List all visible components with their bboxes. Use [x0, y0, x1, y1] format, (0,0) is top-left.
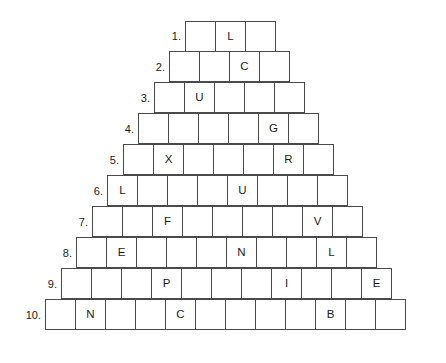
- puzzle-cell[interactable]: [303, 144, 334, 175]
- puzzle-cell[interactable]: [135, 299, 166, 330]
- puzzle-cell[interactable]: [166, 237, 197, 268]
- puzzle-cell[interactable]: [122, 206, 153, 237]
- puzzle-cell[interactable]: [285, 299, 316, 330]
- pyramid-row: 1.L: [186, 21, 276, 52]
- puzzle-cell[interactable]: E: [361, 268, 392, 299]
- puzzle-cell[interactable]: L: [316, 237, 347, 268]
- puzzle-cell[interactable]: [136, 237, 167, 268]
- puzzle-cell[interactable]: E: [106, 237, 137, 268]
- puzzle-cell[interactable]: [121, 268, 152, 299]
- puzzle-cell[interactable]: [345, 299, 376, 330]
- puzzle-cell[interactable]: B: [315, 299, 346, 330]
- puzzle-cell[interactable]: [287, 175, 318, 206]
- puzzle-cell[interactable]: [241, 268, 272, 299]
- puzzle-cell[interactable]: R: [273, 144, 304, 175]
- puzzle-cell[interactable]: [76, 237, 107, 268]
- puzzle-cell[interactable]: [317, 175, 348, 206]
- puzzle-cell[interactable]: [214, 82, 245, 113]
- puzzle-cell[interactable]: I: [271, 268, 302, 299]
- row-number-label: 10.: [26, 300, 46, 331]
- pyramid-row: 4.G: [139, 114, 319, 145]
- row-number-label: 6.: [94, 176, 108, 207]
- pyramid-row: 5.XR: [124, 145, 334, 176]
- puzzle-cell[interactable]: [331, 268, 362, 299]
- puzzle-cell[interactable]: [274, 82, 305, 113]
- puzzle-cell[interactable]: [228, 113, 259, 144]
- puzzle-cell[interactable]: [197, 175, 228, 206]
- puzzle-cell[interactable]: [242, 206, 273, 237]
- puzzle-cell[interactable]: [181, 268, 212, 299]
- row-number-label: 9.: [48, 269, 62, 300]
- row-number-label: 2.: [156, 52, 170, 83]
- pyramid-row: 6.LU: [108, 176, 348, 207]
- puzzle-cell[interactable]: [105, 299, 136, 330]
- row-number-label: 7.: [79, 207, 93, 238]
- puzzle-cell[interactable]: [137, 175, 168, 206]
- puzzle-cell[interactable]: [346, 237, 377, 268]
- puzzle-cell[interactable]: [168, 113, 199, 144]
- puzzle-cell[interactable]: [91, 268, 122, 299]
- pyramid-row: 8.ENL: [77, 238, 377, 269]
- puzzle-cell[interactable]: F: [152, 206, 183, 237]
- puzzle-cell[interactable]: N: [226, 237, 257, 268]
- puzzle-cell[interactable]: [288, 113, 319, 144]
- puzzle-cell[interactable]: [211, 268, 242, 299]
- puzzle-cell[interactable]: [92, 206, 123, 237]
- puzzle-cell[interactable]: U: [184, 82, 215, 113]
- puzzle-cell[interactable]: [213, 144, 244, 175]
- puzzle-cell[interactable]: [45, 299, 76, 330]
- puzzle-cell[interactable]: [272, 206, 303, 237]
- pyramid-row: 9.PIE: [62, 269, 392, 300]
- puzzle-cell[interactable]: V: [302, 206, 333, 237]
- puzzle-cell[interactable]: U: [227, 175, 258, 206]
- puzzle-cell[interactable]: [154, 82, 185, 113]
- puzzle-cell[interactable]: L: [107, 175, 138, 206]
- puzzle-cell[interactable]: [167, 175, 198, 206]
- puzzle-cell[interactable]: [123, 144, 154, 175]
- puzzle-cell[interactable]: [259, 51, 290, 82]
- puzzle-cell[interactable]: C: [165, 299, 196, 330]
- row-number-label: 8.: [63, 238, 77, 269]
- puzzle-cell[interactable]: [182, 206, 213, 237]
- puzzle-cell[interactable]: [196, 237, 227, 268]
- puzzle-cell[interactable]: [199, 51, 230, 82]
- puzzle-cell[interactable]: [195, 299, 226, 330]
- puzzle-cell[interactable]: [255, 299, 286, 330]
- puzzle-cell[interactable]: [332, 206, 363, 237]
- puzzle-cell[interactable]: [198, 113, 229, 144]
- puzzle-cell[interactable]: [138, 113, 169, 144]
- puzzle-cell[interactable]: [286, 237, 317, 268]
- pyramid-row: 7.FV: [93, 207, 363, 238]
- puzzle-cell[interactable]: [256, 237, 287, 268]
- puzzle-cell[interactable]: [225, 299, 256, 330]
- puzzle-cell[interactable]: [243, 144, 274, 175]
- puzzle-cell[interactable]: N: [75, 299, 106, 330]
- row-number-label: 3.: [141, 83, 155, 114]
- pyramid-row: 3.U: [155, 83, 305, 114]
- puzzle-cell[interactable]: G: [258, 113, 289, 144]
- row-number-label: 4.: [125, 114, 139, 145]
- row-number-label: 1.: [172, 21, 186, 52]
- puzzle-cell[interactable]: P: [151, 268, 182, 299]
- puzzle-cell[interactable]: [244, 82, 275, 113]
- puzzle-cell[interactable]: [245, 21, 276, 52]
- puzzle-cell[interactable]: [185, 21, 216, 52]
- puzzle-cell[interactable]: X: [153, 144, 184, 175]
- row-number-label: 5.: [110, 145, 124, 176]
- puzzle-cell[interactable]: C: [229, 51, 260, 82]
- puzzle-cell[interactable]: [301, 268, 332, 299]
- puzzle-cell[interactable]: [183, 144, 214, 175]
- pyramid-row: 2.C: [170, 52, 290, 83]
- puzzle-cell[interactable]: [375, 299, 406, 330]
- pyramid-row: 10.NCB: [46, 300, 406, 331]
- puzzle-cell[interactable]: L: [215, 21, 246, 52]
- puzzle-cell[interactable]: [169, 51, 200, 82]
- word-pyramid-puzzle: 1.L2.C3.U4.G5.XR6.LU7.FV8.ENL9.PIE10.NCB: [0, 0, 446, 363]
- puzzle-cell[interactable]: [61, 268, 92, 299]
- puzzle-cell[interactable]: [212, 206, 243, 237]
- puzzle-cell[interactable]: [257, 175, 288, 206]
